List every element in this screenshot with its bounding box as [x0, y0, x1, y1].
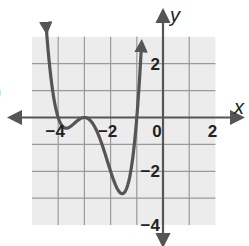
- x-tick-label: 2: [208, 122, 217, 141]
- x-tick-label: −2: [98, 122, 117, 141]
- y-axis-label: y: [168, 4, 181, 26]
- x-tick-label: −4: [46, 122, 66, 141]
- y-tick-label: 2: [151, 55, 160, 74]
- y-tick-label: −4: [141, 216, 161, 235]
- x-tick-label: 0: [152, 122, 161, 141]
- function-graph: −4−2022−2−4 x y: [0, 0, 249, 246]
- x-axis-label: x: [233, 96, 245, 118]
- y-tick-label: −2: [141, 162, 160, 181]
